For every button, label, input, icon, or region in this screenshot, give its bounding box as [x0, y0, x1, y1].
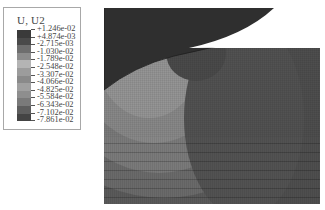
- legend-color-bar: [17, 30, 31, 121]
- legend-swatch: [17, 83, 31, 91]
- legend-label: -7.861e-02: [33, 116, 75, 124]
- legend-swatch: [17, 98, 31, 106]
- legend-labels: +1.246e-02 +4.874e-03 -2.715e-03 -1.030e…: [33, 25, 75, 124]
- legend-swatch: [17, 106, 31, 114]
- legend-swatch: [17, 76, 31, 84]
- legend-swatch: [17, 38, 31, 46]
- contour-plot: [104, 8, 321, 204]
- legend-swatch: [17, 68, 31, 76]
- legend-swatch: [17, 114, 31, 122]
- legend-swatch: [17, 60, 31, 68]
- contour-legend: U, U2 +1.246e-02 +4.874e-03 -2.715e-03 -…: [3, 7, 81, 130]
- legend-swatch: [17, 45, 31, 53]
- legend-swatch: [17, 91, 31, 99]
- legend-swatch: [17, 53, 31, 61]
- legend-swatch: [17, 30, 31, 38]
